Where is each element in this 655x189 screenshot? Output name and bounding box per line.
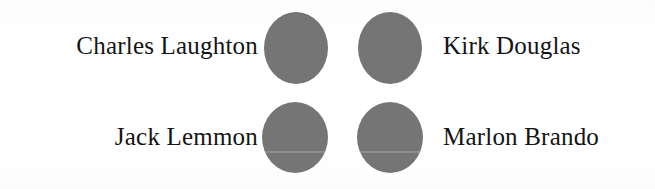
name-label-kirk-douglas: Kirk Douglas xyxy=(443,33,581,58)
bubble-top-left[interactable] xyxy=(264,12,328,84)
page-grain-overlay xyxy=(0,0,655,189)
name-label-charles-laughton: Charles Laughton xyxy=(76,33,258,58)
name-label-marlon-brando: Marlon Brando xyxy=(443,124,599,149)
figure-canvas: Charles Laughton Kirk Douglas Jack Lemmo… xyxy=(0,0,655,189)
name-label-jack-lemmon: Jack Lemmon xyxy=(115,124,258,149)
bubble-top-right[interactable] xyxy=(358,12,422,84)
bubble-bottom-left[interactable] xyxy=(262,102,328,173)
bubble-bottom-right[interactable] xyxy=(357,102,423,173)
